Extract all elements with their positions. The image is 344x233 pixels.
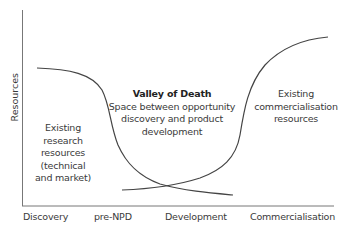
stage-development: Development bbox=[165, 211, 227, 222]
research-line-3: resources bbox=[30, 147, 96, 160]
stage-pre-npd: pre-NPD bbox=[94, 211, 132, 222]
commercial-line-3: resources bbox=[252, 113, 340, 126]
valley-title: Valley of Death bbox=[106, 88, 238, 101]
research-resources-label: Existing research resources (technical a… bbox=[30, 122, 96, 185]
valley-line-2: discovery and product bbox=[106, 113, 238, 126]
valley-of-death-label: Valley of Death Space between opportunit… bbox=[106, 88, 238, 138]
research-line-1: Existing bbox=[30, 122, 96, 135]
research-line-4: (technical bbox=[30, 160, 96, 173]
y-axis-label: Resources bbox=[9, 82, 20, 122]
stage-commercialisation: Commercialisation bbox=[250, 211, 335, 222]
valley-line-3: development bbox=[106, 126, 238, 139]
commercialisation-resources-label: Existing commercialisation resources bbox=[252, 88, 340, 126]
research-line-5: and market) bbox=[30, 172, 96, 185]
stage-discovery: Discovery bbox=[23, 211, 68, 222]
research-line-2: research bbox=[30, 135, 96, 148]
valley-line-1: Space between opportunity bbox=[106, 101, 238, 114]
commercial-line-1: Existing bbox=[252, 88, 340, 101]
commercial-line-2: commercialisation bbox=[252, 101, 340, 114]
